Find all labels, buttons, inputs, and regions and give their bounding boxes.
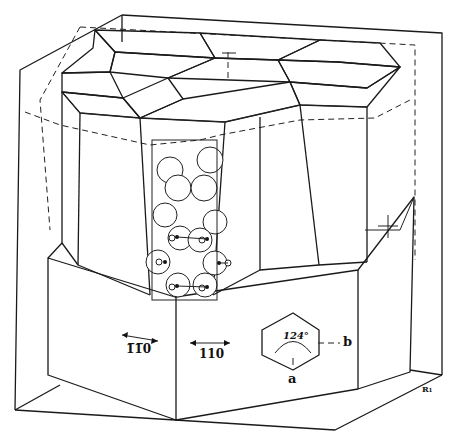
base-prism [48, 197, 414, 420]
hexagon-inset [262, 313, 340, 370]
axis-a-label: a [288, 371, 296, 386]
crystal-diagram [0, 0, 456, 439]
top-faces [62, 30, 400, 122]
face-label-right: 110 [199, 347, 224, 361]
atom-column [146, 140, 231, 300]
top-axis-marker [222, 52, 236, 80]
face-label-left: 1̅1̅0 [126, 342, 151, 356]
corner-mark-label: R₁ [422, 384, 432, 394]
angle-label: 124° [283, 330, 309, 341]
axis-b-label: b [343, 334, 352, 349]
